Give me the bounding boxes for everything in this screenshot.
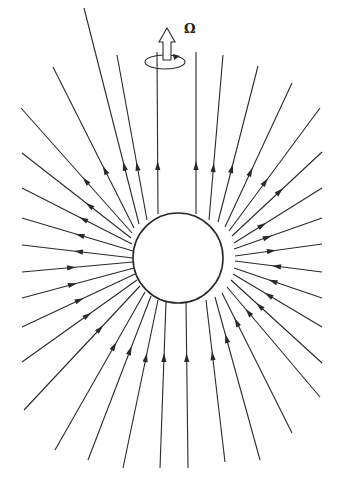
arrow-outward-icon <box>76 234 85 239</box>
field-line <box>231 280 322 363</box>
arrow-inward-icon <box>67 265 76 270</box>
arrow-inward-icon <box>210 351 215 360</box>
field-line <box>227 287 320 397</box>
field-line <box>53 67 134 228</box>
field-line <box>234 188 322 243</box>
arrow-outward-icon <box>193 161 198 170</box>
arrow-outward-icon <box>123 162 128 171</box>
arrow-inward-icon <box>265 293 274 300</box>
field-line <box>123 300 158 468</box>
arrow-outward-icon <box>267 249 276 254</box>
omega-label: Ω <box>184 22 196 35</box>
arrow-inward-icon <box>225 334 230 343</box>
field-line <box>22 153 131 238</box>
arrow-inward-icon <box>235 318 241 327</box>
arrow-inward-icon <box>126 346 132 355</box>
field-line <box>222 293 292 433</box>
arrow-inward-icon <box>82 313 91 320</box>
arrow-outward-icon <box>210 163 215 172</box>
arrow-inward-icon <box>184 353 189 362</box>
arrow-inward-icon <box>269 280 278 285</box>
field-line <box>84 8 139 224</box>
arrow-inward-icon <box>272 264 281 269</box>
arrow-outward-icon <box>228 164 233 173</box>
field-line <box>21 108 132 233</box>
rotation-axis-symbol <box>145 28 185 69</box>
field-line <box>186 302 188 468</box>
field-line <box>160 302 166 468</box>
field-line <box>233 274 322 327</box>
arrow-outward-icon <box>155 161 160 170</box>
field-line <box>209 55 223 220</box>
arrow-outward-icon <box>246 168 252 177</box>
central-sphere <box>133 213 223 303</box>
arrow-outward-icon <box>257 223 266 230</box>
arrow-inward-icon <box>68 283 77 288</box>
field-line <box>234 218 322 249</box>
arrow-inward-icon <box>143 353 148 362</box>
arrow-outward-icon <box>79 217 88 223</box>
arrow-inward-icon <box>110 342 117 351</box>
arrow-inward-icon <box>161 353 166 362</box>
field-line-diagram <box>0 0 342 498</box>
arrow-outward-icon <box>74 250 83 255</box>
arrow-outward-icon <box>262 236 271 241</box>
field-line <box>157 52 158 214</box>
field-line <box>22 262 133 272</box>
field-line <box>235 244 322 256</box>
field-line <box>22 280 137 362</box>
arrow-outward-icon <box>261 178 268 187</box>
arrow-outward-icon <box>103 166 109 175</box>
arrow-inward-icon <box>74 298 83 304</box>
